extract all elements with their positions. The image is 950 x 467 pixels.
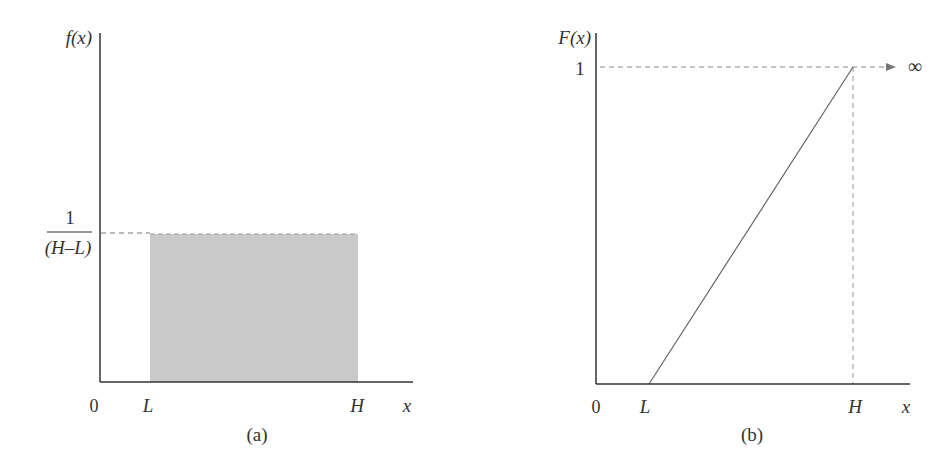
pdf-origin-label: 0 (90, 396, 99, 416)
cdf-x-tick-H: H (847, 396, 863, 417)
pdf-x-tick-H: H (349, 395, 365, 416)
pdf-x-label: x (402, 395, 412, 416)
infinity-label: ∞ (908, 55, 922, 77)
cdf-x-label: x (901, 396, 911, 417)
panel-a-pdf: f(x) 1 (H–L) 0 L H x (a) (45, 27, 413, 446)
pdf-y-label: f(x) (66, 27, 92, 49)
arrow-right-icon (886, 63, 896, 71)
pdf-shaded-region (150, 234, 358, 382)
cdf-origin-label: 0 (592, 397, 601, 417)
pdf-y-tick-denominator: (H–L) (45, 237, 91, 259)
cdf-x-tick-L: L (639, 396, 651, 417)
cdf-y-tick-one: 1 (575, 58, 585, 79)
pdf-x-tick-L: L (142, 395, 154, 416)
pdf-caption: (a) (246, 424, 267, 446)
cdf-ramp-line (649, 67, 853, 384)
pdf-y-tick-numerator: 1 (65, 207, 75, 228)
cdf-y-label: F(x) (557, 27, 591, 49)
panel-b-cdf: F(x) 1 ∞ 0 L H x (b) (557, 27, 922, 446)
figure: f(x) 1 (H–L) 0 L H x (a) F(x) 1 ∞ 0 L H … (0, 0, 950, 467)
cdf-caption: (b) (741, 424, 763, 446)
